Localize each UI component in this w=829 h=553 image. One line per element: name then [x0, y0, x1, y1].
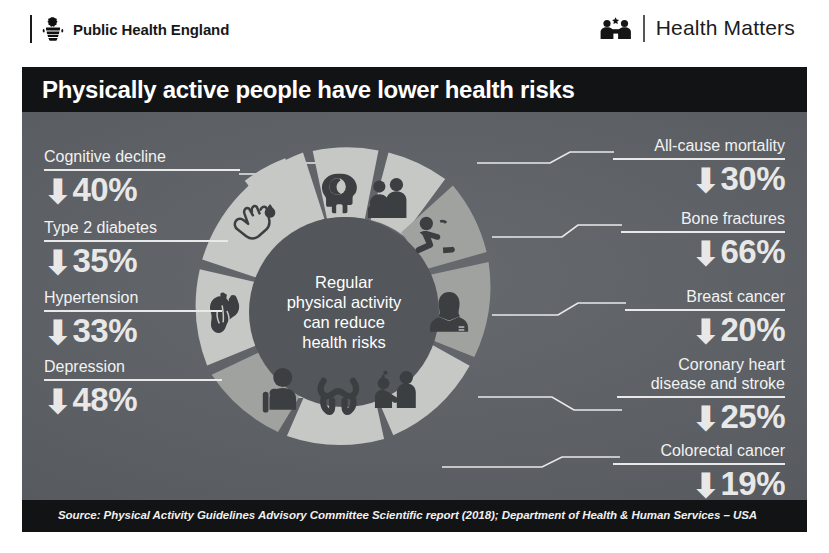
stat-value: ⬇25% — [617, 399, 785, 437]
stat-coronary-heart-disease: Coronary heart disease and stroke ⬇25% — [617, 355, 785, 437]
two-people-icon — [599, 16, 633, 40]
page-header: Public Health England Health Matters — [0, 0, 829, 58]
stat-hypertension: Hypertension ⬇33% — [44, 288, 222, 351]
stat-label: Bone fractures — [621, 209, 785, 228]
stat-cognitive-decline: Cognitive decline ⬇40% — [44, 147, 240, 210]
down-arrow-icon: ⬇ — [44, 245, 72, 281]
stat-colorectal-cancer: Colorectal cancer ⬇19% — [613, 441, 785, 504]
title-band: Physically active people have lower heal… — [22, 67, 807, 112]
infographic-panel: Physically active people have lower heal… — [22, 67, 807, 532]
stat-label: Type 2 diabetes — [44, 218, 228, 237]
stat-value: ⬇35% — [44, 243, 228, 281]
stat-bone-fractures: Bone fractures ⬇66% — [621, 209, 785, 272]
stat-label: Colorectal cancer — [613, 441, 785, 460]
stat-label: All-cause mortality — [613, 136, 785, 155]
stat-value: ⬇19% — [613, 466, 785, 504]
stat-breast-cancer: Breast cancer ⬇20% — [625, 287, 785, 350]
stat-all-cause-mortality: All-cause mortality ⬇30% — [613, 136, 785, 199]
stat-value: ⬇33% — [44, 313, 222, 351]
stat-value: ⬇48% — [44, 382, 222, 420]
stat-label-line2: disease and stroke — [617, 374, 785, 393]
down-arrow-icon: ⬇ — [692, 401, 720, 437]
down-arrow-icon: ⬇ — [692, 468, 720, 504]
page-title: Physically active people have lower heal… — [42, 76, 575, 104]
royal-crest-icon — [41, 16, 65, 42]
down-arrow-icon: ⬇ — [44, 315, 72, 351]
phe-logo-label: Public Health England — [73, 21, 229, 38]
down-arrow-icon: ⬇ — [44, 384, 72, 420]
health-matters-logo: Health Matters — [599, 12, 795, 44]
stat-label: Cognitive decline — [44, 147, 240, 166]
stat-label: Hypertension — [44, 288, 222, 307]
down-arrow-icon: ⬇ — [44, 174, 72, 210]
source-text: Source: Physical Activity Guidelines Adv… — [58, 509, 757, 521]
down-arrow-icon: ⬇ — [692, 163, 720, 199]
down-arrow-icon: ⬇ — [692, 314, 720, 350]
stat-label: Depression — [44, 357, 222, 376]
public-health-england-logo: Public Health England — [30, 14, 229, 44]
health-matters-label: Health Matters — [656, 16, 795, 40]
logo-divider-rule — [30, 15, 32, 43]
stat-value: ⬇30% — [613, 161, 785, 199]
hm-divider-rule — [643, 15, 645, 42]
stat-value: ⬇40% — [44, 172, 240, 210]
stat-type-2-diabetes: Type 2 diabetes ⬇35% — [44, 218, 228, 281]
stat-label: Coronary heart — [617, 355, 785, 374]
stat-label: Breast cancer — [625, 287, 785, 306]
stat-depression: Depression ⬇48% — [44, 357, 222, 420]
stat-value: ⬇66% — [621, 234, 785, 272]
stat-value: ⬇20% — [625, 312, 785, 350]
source-band: Source: Physical Activity Guidelines Adv… — [22, 500, 807, 532]
down-arrow-icon: ⬇ — [692, 236, 720, 272]
